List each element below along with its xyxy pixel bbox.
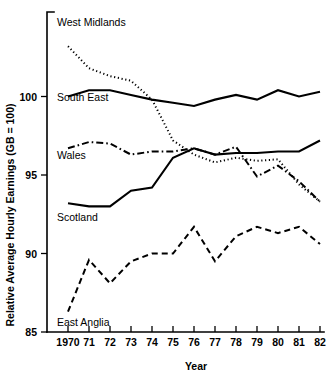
y-tick-label: 95 — [25, 169, 37, 181]
series-label-east-anglia: East Anglia — [57, 316, 110, 328]
x-tick-label: 71 — [83, 336, 95, 348]
series-line-scotland — [68, 140, 320, 206]
y-tick-label: 90 — [25, 248, 37, 260]
data-series-group — [68, 46, 320, 311]
series-labels-group: West MidlandsSouth EastWalesScotlandEast… — [57, 16, 126, 328]
x-tick-label: 82 — [314, 336, 326, 348]
x-tick-label: 73 — [125, 336, 137, 348]
series-label-south-east: South East — [57, 91, 108, 103]
x-tick-label: 81 — [293, 336, 305, 348]
y-axis-ticks: 859095100 — [19, 91, 47, 339]
x-axis-title: Year — [185, 360, 207, 372]
x-tick-label: 75 — [167, 336, 179, 348]
chart-figure: 859095100 1970717273747576777879808182 W… — [0, 0, 328, 378]
y-tick-label: 85 — [25, 326, 37, 338]
x-tick-label: 77 — [209, 336, 221, 348]
x-tick-label: 74 — [146, 336, 158, 348]
y-axis-line — [47, 12, 54, 332]
series-label-scotland: Scotland — [57, 211, 98, 223]
x-tick-label: 1970 — [56, 336, 80, 348]
x-tick-label: 79 — [251, 336, 263, 348]
line-chart-canvas: 859095100 1970717273747576777879808182 W… — [0, 0, 328, 378]
x-tick-label: 72 — [104, 336, 116, 348]
x-tick-label: 76 — [188, 336, 200, 348]
series-line-east-anglia — [68, 227, 320, 312]
series-line-west-midlands — [68, 46, 320, 201]
series-label-west-midlands: West Midlands — [57, 16, 126, 28]
y-tick-label: 100 — [19, 91, 37, 103]
series-label-wales: Wales — [57, 149, 86, 161]
y-axis-title: Relative Average Hourly Earnings (GB = 1… — [4, 103, 16, 326]
axes — [47, 12, 324, 332]
x-tick-label: 78 — [230, 336, 242, 348]
x-tick-label: 80 — [272, 336, 284, 348]
x-axis-ticks: 1970717273747576777879808182 — [56, 326, 326, 348]
